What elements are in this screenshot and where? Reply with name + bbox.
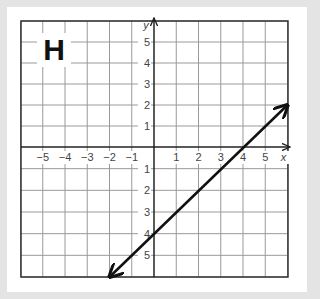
- svg-text:−5: −5: [36, 151, 49, 163]
- svg-text:2: 2: [195, 151, 201, 163]
- svg-text:−3: −3: [81, 151, 94, 163]
- svg-text:1: 1: [173, 151, 179, 163]
- svg-text:−2: −2: [103, 151, 116, 163]
- svg-text:3: 3: [144, 78, 150, 90]
- svg-text:3: 3: [144, 206, 150, 218]
- svg-text:2: 2: [144, 184, 150, 196]
- svg-text:1: 1: [144, 163, 150, 175]
- svg-text:3: 3: [218, 151, 224, 163]
- svg-text:4: 4: [240, 151, 246, 163]
- panel-label: H: [37, 33, 71, 67]
- svg-text:4: 4: [144, 57, 150, 69]
- svg-text:5: 5: [144, 36, 150, 48]
- svg-text:5: 5: [262, 151, 268, 163]
- svg-text:2: 2: [144, 99, 150, 111]
- svg-text:1: 1: [144, 120, 150, 132]
- svg-text:−1: −1: [125, 151, 138, 163]
- svg-text:x: x: [280, 151, 287, 163]
- svg-text:−4: −4: [59, 151, 72, 163]
- svg-text:5: 5: [144, 249, 150, 261]
